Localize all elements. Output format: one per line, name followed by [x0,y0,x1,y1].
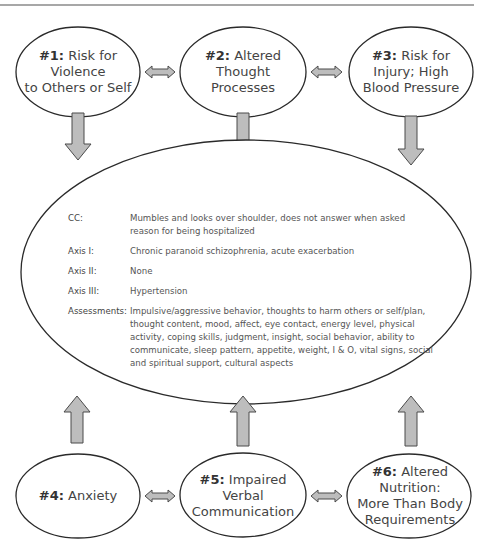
node-5-line3: Communication [192,504,294,519]
double-arrow-1-2 [145,66,175,78]
row-assessments: Assessments: Impulsive/aggressive behavi… [68,305,448,370]
node-2-line2: Thought Processes [211,64,275,95]
arrow-down-3 [398,116,424,165]
node-6-line3: Requirements [365,512,455,527]
double-arrow-5-6 [311,490,342,502]
center-content: CC: Mumbles and looks over shoulder, doe… [68,212,448,377]
row-axis-3: Axis III: Hypertension [68,285,448,298]
node-2-number: #2: [205,48,230,63]
row-axis-3-value: Hypertension [130,285,448,298]
row-cc: CC: Mumbles and looks over shoulder, doe… [68,212,448,238]
node-1-number: #1: [39,48,64,63]
row-assessments-key: Assessments: [68,305,130,370]
row-assessments-value: Impulsive/aggressive behavior, thoughts … [130,305,448,370]
row-axis-2: Axis II: None [68,265,448,278]
node-3-label: #3: Risk forInjury; HighBlood Pressure [351,44,471,100]
node-1-line2: to Others or Self [25,80,132,95]
row-cc-value: Mumbles and looks over shoulder, does no… [130,212,448,238]
row-axis-1-value: Chronic paranoid schizophrenia, acute ex… [130,245,448,258]
row-axis-1-key: Axis I: [68,245,130,258]
node-5-line2: Verbal [222,488,263,503]
node-5-line1: Impaired [229,472,287,487]
node-2-line1: Altered [234,48,281,63]
node-5-label: #5: ImpairedVerbalCommunication [183,468,303,524]
double-arrow-4-5 [145,490,175,502]
row-axis-3-key: Axis III: [68,285,130,298]
node-3-number: #3: [372,48,397,63]
node-5-number: #5: [200,472,225,487]
node-3-line1: Risk for [401,48,450,63]
node-4-number: #4: [39,488,64,503]
node-6-label: #6: Altered Nutrition:More Than BodyRequ… [345,468,475,524]
node-6-line2: More Than Body [357,496,463,511]
arrow-up-4 [64,396,90,443]
node-1-label: #1: Risk for Violenceto Others or Self [18,50,138,94]
row-axis-2-key: Axis II: [68,265,130,278]
node-4-line1: Anxiety [68,488,117,503]
row-cc-key: CC: [68,212,130,238]
node-3-line2: Injury; High [373,64,448,79]
node-6-number: #6: [372,464,397,479]
node-2-label: #2: AlteredThought Processes [183,50,303,94]
arrow-down-1 [65,113,91,160]
row-axis-1: Axis I: Chronic paranoid schizophrenia, … [68,245,448,258]
double-arrow-2-3 [311,66,342,78]
arrow-up-6 [398,396,424,446]
row-axis-2-value: None [130,265,448,278]
node-4-label: #4: Anxiety [18,484,138,508]
node-3-line3: Blood Pressure [363,80,459,95]
